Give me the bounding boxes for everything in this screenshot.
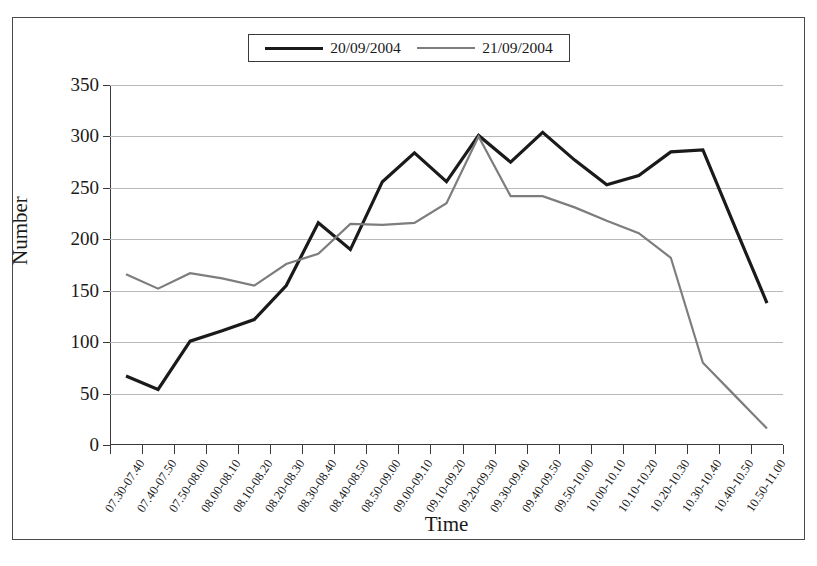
x-tick-mark — [398, 445, 399, 454]
x-tick-mark — [559, 445, 560, 454]
y-tick-mark — [103, 136, 110, 137]
y-tick-label: 250 — [71, 177, 100, 199]
x-axis-title: Time — [110, 512, 783, 537]
x-tick-mark — [687, 445, 688, 454]
legend-entry-series-0: 20/09/2004 — [265, 39, 401, 57]
x-tick-mark — [270, 445, 271, 454]
y-tick-mark — [103, 291, 110, 292]
x-tick-mark — [527, 445, 528, 454]
x-tick-mark — [142, 445, 143, 454]
chart-legend: 20/09/2004 21/09/2004 — [248, 34, 570, 62]
x-tick-mark — [174, 445, 175, 454]
y-tick-mark — [103, 445, 110, 446]
x-tick-mark — [334, 445, 335, 454]
legend-label-series-0: 20/09/2004 — [330, 39, 401, 57]
y-tick-mark — [103, 188, 110, 189]
y-tick-label: 350 — [71, 74, 100, 96]
series-lines — [110, 85, 783, 445]
x-tick-mark — [206, 445, 207, 454]
x-tick-mark — [783, 445, 784, 454]
y-tick-label: 150 — [71, 280, 100, 302]
x-tick-mark — [623, 445, 624, 454]
legend-swatch-series-1 — [417, 47, 475, 49]
x-tick-mark — [751, 445, 752, 454]
x-tick-mark — [655, 445, 656, 454]
y-tick-label: 0 — [90, 434, 100, 456]
x-tick-mark — [366, 445, 367, 454]
y-axis-title: Number — [8, 196, 33, 265]
x-tick-mark — [430, 445, 431, 454]
y-tick-label: 200 — [71, 228, 100, 250]
x-tick-mark — [463, 445, 464, 454]
x-tick-mark — [302, 445, 303, 454]
x-tick-mark — [495, 445, 496, 454]
y-tick-mark — [103, 394, 110, 395]
y-tick-mark — [103, 342, 110, 343]
legend-entry-series-1: 21/09/2004 — [417, 39, 553, 57]
legend-label-series-1: 21/09/2004 — [482, 39, 553, 57]
x-tick-mark — [719, 445, 720, 454]
y-tick-label: 50 — [80, 383, 99, 405]
x-tick-mark — [110, 445, 111, 454]
y-tick-mark — [103, 239, 110, 240]
y-tick-label: 100 — [71, 331, 100, 353]
y-tick-mark — [103, 85, 110, 86]
legend-swatch-series-0 — [265, 47, 323, 50]
plot-area: 050100150200250300350 07.30-07.4007.40-0… — [110, 85, 783, 445]
y-tick-label: 300 — [71, 125, 100, 147]
x-tick-mark — [238, 445, 239, 454]
chart-figure: 20/09/2004 21/09/2004 050100150200250300… — [0, 0, 817, 566]
x-tick-mark — [591, 445, 592, 454]
